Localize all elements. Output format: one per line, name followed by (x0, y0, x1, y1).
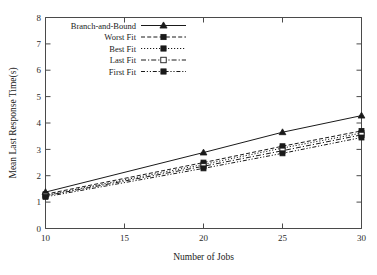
x-tick-label: 15 (120, 233, 130, 243)
y-tick-label: 7 (37, 39, 42, 49)
y-tick-label: 6 (37, 65, 42, 75)
data-point-marker (161, 69, 166, 74)
series-last-fit (43, 132, 364, 198)
data-point-marker (280, 151, 285, 156)
line-chart: 0 1 2 3 4 5 6 7 8 10 15 20 (0, 0, 377, 275)
x-axis-tick-labels: 10 15 20 25 30 (41, 233, 367, 243)
x-tick-label: 25 (278, 233, 288, 243)
data-point-marker (43, 194, 48, 199)
y-axis-tick-labels: 0 1 2 3 4 5 6 7 8 (37, 13, 42, 234)
y-tick-label: 5 (37, 92, 42, 102)
legend-label: Last Fit (110, 55, 137, 65)
legend-item-branch-and-bound[interactable]: Branch-and-Bound (71, 21, 186, 31)
y-tick-label: 1 (37, 197, 42, 207)
y-axis-title: Mean Last Response Time(s) (8, 67, 19, 178)
series-layer (42, 112, 365, 199)
y-tick-label: 2 (37, 171, 42, 181)
legend-item-worst-fit[interactable]: Worst Fit (104, 32, 186, 42)
series-branch-and-bound (42, 112, 365, 194)
series-first-fit (43, 135, 364, 199)
legend-item-best-fit[interactable]: Best Fit (109, 44, 186, 54)
data-point-marker (358, 112, 365, 118)
data-point-marker (161, 57, 166, 62)
y-tick-label: 8 (37, 13, 42, 23)
y-axis-ticks (46, 18, 362, 229)
data-point-marker (161, 34, 166, 39)
x-tick-label: 20 (199, 233, 209, 243)
data-point-marker (359, 135, 364, 140)
x-axis-title: Number of Jobs (173, 252, 234, 262)
x-axis-ticks (46, 18, 362, 229)
data-point-marker (161, 46, 166, 51)
legend-label: Branch-and-Bound (71, 21, 137, 31)
legend-item-first-fit[interactable]: First Fit (109, 67, 186, 77)
legend-label: First Fit (109, 67, 137, 77)
y-tick-label: 4 (37, 118, 42, 128)
chart-legend: Branch-and-BoundWorst FitBest FitLast Fi… (71, 21, 186, 77)
x-tick-label: 10 (41, 233, 51, 243)
chart-container: 0 1 2 3 4 5 6 7 8 10 15 20 (0, 0, 377, 275)
y-tick-label: 3 (37, 145, 42, 155)
legend-label: Best Fit (109, 44, 136, 54)
plot-frame (46, 18, 362, 229)
data-point-marker (201, 166, 206, 171)
legend-item-last-fit[interactable]: Last Fit (110, 55, 186, 65)
legend-label: Worst Fit (104, 32, 136, 42)
x-tick-label: 30 (357, 233, 367, 243)
